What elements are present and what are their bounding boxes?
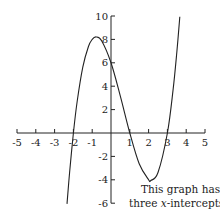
caption-suffix: -intercepts. xyxy=(167,197,220,209)
x-tick-label: 4 xyxy=(183,137,189,148)
ticks: -5-4-3-2-112345108642-2-4-6 xyxy=(12,11,208,209)
x-tick-label: 2 xyxy=(145,137,151,148)
y-tick-label: -6 xyxy=(98,198,108,209)
y-tick-label: 2 xyxy=(102,104,108,115)
x-tick-label: -2 xyxy=(69,137,79,148)
x-tick-label: -3 xyxy=(50,137,60,148)
y-tick-label: -4 xyxy=(98,174,108,185)
cubic-graph: -5-4-3-2-112345108642-2-4-6 This graph h… xyxy=(0,0,220,216)
function-curve xyxy=(67,17,180,204)
y-tick-label: 6 xyxy=(102,57,108,68)
y-tick-label: 4 xyxy=(102,81,108,92)
x-tick-label: -5 xyxy=(12,137,22,148)
caption-prefix: three xyxy=(129,197,161,209)
y-tick-label: 10 xyxy=(95,11,108,22)
caption-line-1: This graph has xyxy=(141,183,220,195)
y-tick-label: -2 xyxy=(98,151,108,162)
x-tick-label: 5 xyxy=(202,137,208,148)
x-tick-label: -1 xyxy=(87,137,97,148)
caption-line-2: three x-intercepts. xyxy=(129,197,220,209)
x-tick-label: -4 xyxy=(31,137,41,148)
